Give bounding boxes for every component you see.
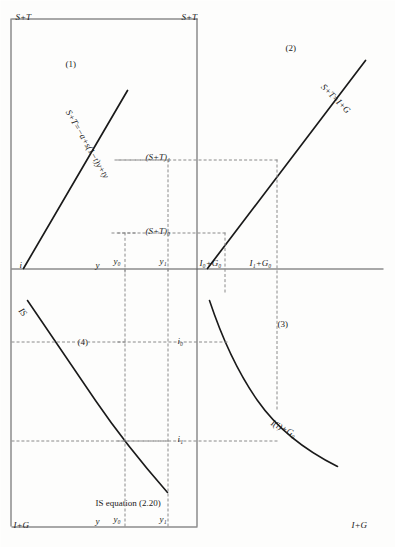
- q4-guide-v-i0: [11, 341, 125, 342]
- figure-sheet: (2) S+T=I+G S+T (S+T)₁ (S+T)₀ (3) I(i)+G…: [0, 0, 395, 547]
- q4-tick-y1: y₁: [159, 514, 166, 523]
- q4-axis-label-ig-bottom: I+G: [13, 520, 29, 529]
- figure-canvas: (2) S+T=I+G S+T (S+T)₁ (S+T)₀ (3) I(i)+G…: [0, 0, 395, 547]
- q4-axis-label-i: i: [19, 260, 22, 269]
- q4-curve-caption: IS equation (2.20): [95, 498, 160, 507]
- q4-tick-y0: y₀: [113, 514, 120, 523]
- q4-guide-h-y0: [124, 268, 125, 526]
- q4-curve: [0, 0, 395, 547]
- q4-guide-h-y1: [167, 268, 168, 526]
- q4-guide-v-i1: [11, 440, 168, 441]
- q4-axis-label-y: y: [95, 516, 99, 525]
